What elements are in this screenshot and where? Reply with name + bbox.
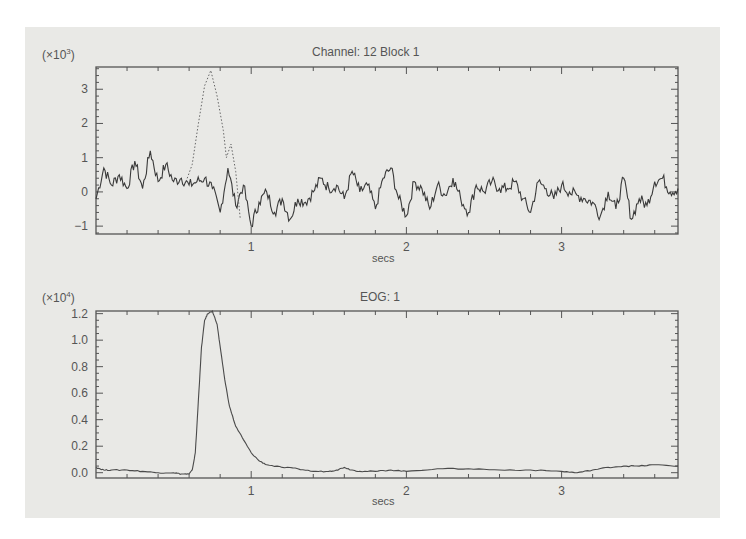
y-tick-label: 0.0 [71,466,88,480]
plot-frame [96,311,678,478]
y-tick-label: 0.4 [71,413,88,427]
y-tick-label: 0.8 [71,360,88,374]
y-tick-label: 0.2 [71,439,88,453]
x-tick-label: 3 [558,484,565,498]
x-tick-label: 2 [403,484,410,498]
eog-signal-line [96,311,678,474]
plot-area: 1230.00.20.40.60.81.01.2 [0,0,746,539]
y-tick-label: 1.0 [71,333,88,347]
y-tick-label: 0.6 [71,386,88,400]
y-tick-label: 1.2 [71,307,88,321]
x-tick-label: 1 [248,484,255,498]
x-axis-label: secs [372,495,395,507]
